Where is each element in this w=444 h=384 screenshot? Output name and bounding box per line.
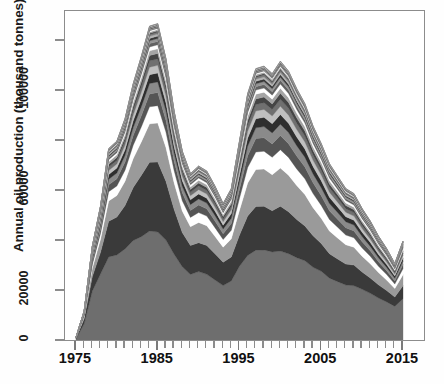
x-tick-mark <box>360 341 361 348</box>
x-tick-mark <box>320 341 322 350</box>
x-tick-mark <box>369 341 370 348</box>
x-tick-mark <box>271 341 272 348</box>
x-tick-mark <box>262 341 263 348</box>
x-tick-mark <box>197 341 198 348</box>
x-tick-label: 2005 <box>304 350 336 366</box>
y-tick-mark <box>55 39 64 40</box>
x-tick-mark <box>99 341 100 348</box>
x-tick-label: 1975 <box>59 350 91 366</box>
x-tick-label: 2015 <box>386 350 418 366</box>
x-tick-mark <box>287 341 288 348</box>
x-tick-mark <box>74 341 76 350</box>
x-tick-mark <box>189 341 190 348</box>
x-tick-label: 1985 <box>141 350 173 366</box>
x-tick-mark <box>401 341 403 350</box>
x-tick-mark <box>213 341 214 348</box>
x-tick-mark <box>115 341 116 348</box>
x-tick-mark <box>83 341 84 348</box>
x-tick-mark <box>222 341 223 348</box>
x-tick-mark <box>246 341 247 348</box>
x-tick-mark <box>393 341 394 348</box>
x-tick-mark <box>230 341 231 348</box>
x-tick-mark <box>205 341 206 348</box>
x-tick-mark <box>311 341 312 348</box>
x-tick-mark <box>181 341 182 348</box>
y-tick-label: 20000 <box>17 248 31 328</box>
stacked-area-series-group <box>65 11 425 341</box>
y-tick-mark <box>55 139 64 140</box>
y-tick-mark <box>55 339 64 340</box>
x-tick-mark <box>385 341 386 348</box>
x-tick-mark <box>132 341 133 348</box>
chart-figure: Annual oil production (thousand tonnes) … <box>0 0 444 384</box>
x-tick-mark <box>148 341 149 348</box>
y-tick-mark <box>55 189 64 190</box>
x-tick-mark <box>279 341 280 348</box>
x-tick-mark <box>140 341 141 348</box>
x-tick-mark <box>295 341 296 348</box>
x-tick-mark <box>156 341 158 350</box>
x-tick-mark <box>336 341 337 348</box>
y-tick-label: 100000 <box>17 48 31 128</box>
x-tick-mark <box>238 341 240 350</box>
y-tick-label: 60000 <box>17 148 31 228</box>
y-tick-mark <box>55 289 64 290</box>
x-tick-mark <box>328 341 329 348</box>
x-tick-mark <box>172 341 173 348</box>
y-axis-title: Annual oil production (thousand tonnes) <box>11 0 26 276</box>
x-tick-mark <box>123 341 124 348</box>
x-tick-mark <box>344 341 345 348</box>
x-tick-mark <box>91 341 92 348</box>
x-tick-mark <box>164 341 165 348</box>
x-tick-mark <box>377 341 378 348</box>
x-tick-mark <box>107 341 108 348</box>
x-tick-mark <box>254 341 255 348</box>
y-tick-mark <box>55 89 64 90</box>
x-tick-label: 1995 <box>222 350 254 366</box>
x-tick-mark <box>303 341 304 348</box>
plot-area <box>64 10 425 341</box>
x-tick-mark <box>352 341 353 348</box>
y-tick-mark <box>55 239 64 240</box>
